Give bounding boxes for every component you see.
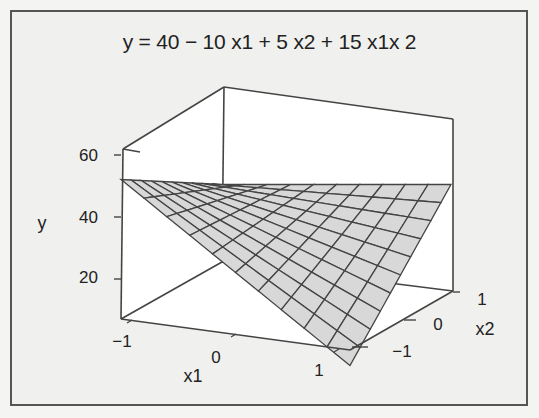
x2-tick-minus1: −1 [392, 342, 411, 361]
x1-tick-0: 0 [211, 348, 220, 367]
y-axis: 60 40 20 y [38, 146, 122, 287]
x1-tick-minus1: −1 [112, 332, 131, 351]
surface-plot: 60 40 20 y −1 0 1 x1 −1 0 1 x2 [0, 0, 539, 418]
y-tick-60: 60 [79, 146, 98, 165]
y-tick-20: 20 [79, 268, 98, 287]
y-axis-label: y [38, 213, 47, 233]
x2-tick-0: 0 [433, 315, 442, 334]
x2-axis-label: x2 [475, 319, 494, 339]
x1-tick-1: 1 [314, 361, 323, 380]
x2-tick-1: 1 [477, 290, 486, 309]
y-tick-40: 40 [79, 208, 98, 227]
x1-axis-label: x1 [183, 366, 202, 386]
